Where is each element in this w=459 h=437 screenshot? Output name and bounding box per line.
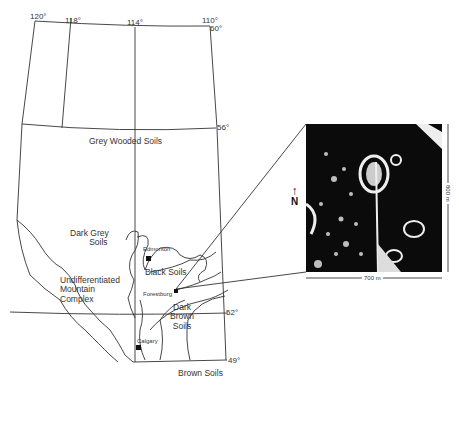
longitude-114-label: 114° — [127, 19, 143, 28]
north-label: N — [291, 196, 298, 207]
dark-grey-line2: Soils — [71, 237, 107, 247]
mountain-complex-label: Undifferentiated Mountain Complex — [60, 276, 120, 304]
dark-grey-soils-label: Dark Grey Soils — [70, 229, 109, 248]
north-arrow-icon: ↑ — [291, 186, 298, 196]
aerial-inset-image — [306, 124, 442, 272]
latitude-49-label: 49° — [228, 357, 240, 366]
aerial-image-pattern — [306, 124, 442, 272]
forestburg-label: Forestburg — [143, 291, 172, 298]
grey-wooded-soils-label: Grey Wooded Soils — [89, 137, 162, 146]
calgary-label: Calgary — [137, 338, 158, 345]
longitude-120-label: 120° — [30, 13, 47, 22]
latitude-52-label: 52° — [226, 309, 238, 318]
north-arrow: ↑ N — [291, 186, 298, 207]
longitude-118-label: 118° — [65, 17, 81, 26]
latitude-60-label: 60° — [210, 25, 222, 34]
latitude-56-label: 56° — [217, 124, 229, 133]
forestburg-marker — [174, 289, 178, 293]
inset-height-scale-label: 800 m — [444, 183, 451, 204]
calgary-marker — [136, 345, 141, 350]
edmonton-marker — [146, 256, 151, 261]
dark-brown-soils-label: Dark Brown Soils — [170, 303, 194, 331]
inset-width-scale-label: 700 m — [362, 275, 383, 282]
brown-soils-label: Brown Soils — [178, 369, 223, 378]
mountain-line3: Complex — [60, 294, 94, 304]
black-soils-label: Black Soils — [145, 268, 187, 277]
edmonton-label: Edmonton — [143, 246, 170, 253]
dark-brown-line3: Soils — [173, 321, 191, 331]
